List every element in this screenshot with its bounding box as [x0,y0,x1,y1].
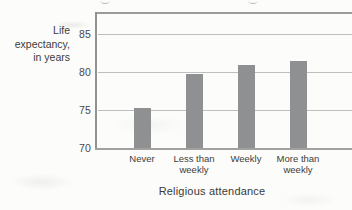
bar-less-than-weekly [186,74,203,148]
x-category-label: More than weekly [261,153,335,175]
y-axis-title-line: Life [0,24,70,38]
y-axis-title: Life expectancy, in years [0,24,70,65]
gridline [98,72,352,73]
y-tick-label: 70 [66,142,91,154]
y-axis-title-line: in years [0,51,70,65]
gridline [98,34,352,35]
bar-weekly [238,65,255,148]
scan-artifact [248,0,258,4]
y-axis-title-line: expectancy, [0,38,70,52]
scan-artifact [100,0,110,4]
bar-chart-figure: Life expectancy, in years Religious atte… [0,0,352,210]
plot-area [97,13,352,148]
y-tick-label: 80 [66,66,91,78]
y-tick-label: 75 [66,104,91,116]
y-tick-label: 85 [66,28,91,40]
bar-more-than-weekly [290,61,307,148]
x-axis-line [95,148,352,150]
x-axis-title: Religious attendance [92,185,332,197]
bar-never [134,108,151,148]
